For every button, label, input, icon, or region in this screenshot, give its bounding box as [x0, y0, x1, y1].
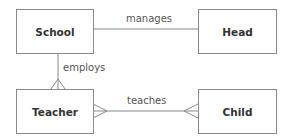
relationship-label-manages: manages	[126, 13, 172, 24]
entity-child-label: Child	[223, 106, 253, 118]
entity-head-label: Head	[222, 26, 253, 38]
relationship-label-employs: employs	[63, 62, 105, 73]
entity-head[interactable]: Head	[198, 9, 277, 54]
entity-teacher-label: Teacher	[32, 106, 78, 118]
entity-teacher[interactable]: Teacher	[16, 89, 94, 134]
entity-child[interactable]: Child	[198, 89, 277, 134]
entity-school-label: School	[35, 26, 74, 38]
relationship-label-teaches: teaches	[127, 95, 166, 106]
entity-school[interactable]: School	[16, 9, 94, 54]
